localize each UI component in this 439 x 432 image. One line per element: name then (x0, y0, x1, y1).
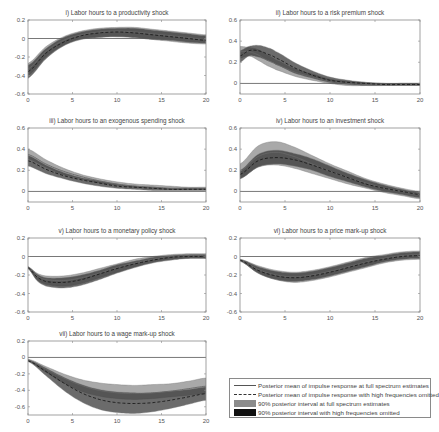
y-tick-label: 0.2 (17, 17, 26, 23)
x-tick-label: 5 (71, 315, 75, 321)
legend-item-omitted-mean: Posterior mean of impulse response with … (234, 390, 439, 399)
panel-v: v) Labor hours to a monetary policy shoc… (15, 227, 210, 321)
panel-title: vi) Labor hours to a price mark-up shock (274, 227, 388, 235)
plot-area (28, 149, 206, 191)
legend-label: Posterior mean of impulse response at fu… (258, 382, 429, 389)
y-tick-label: -0.6 (227, 309, 238, 315)
y-tick-label: 0 (22, 254, 26, 260)
x-tick-label: 20 (203, 97, 210, 103)
x-tick-label: 5 (71, 418, 75, 424)
y-tick-label: 0.2 (17, 235, 26, 241)
legend-item-omitted-interval: 90% posterior interval with high frequen… (234, 408, 400, 417)
legend: Posterior mean of impulse response at fu… (229, 378, 431, 418)
x-tick-label: 0 (238, 205, 242, 211)
x-tick-label: 5 (283, 97, 287, 103)
x-tick-label: 10 (327, 205, 334, 211)
x-tick-label: 5 (283, 205, 287, 211)
plot-area (28, 254, 206, 288)
dashed-line-icon (234, 391, 256, 398)
y-tick-label: 0.4 (229, 38, 238, 44)
black-fill-swatch-icon (234, 409, 256, 416)
x-tick-label: 15 (372, 97, 379, 103)
x-tick-label: 10 (114, 205, 121, 211)
y-tick-label: 0 (234, 80, 238, 86)
x-tick-label: 10 (114, 315, 121, 321)
y-tick-label: -0.4 (227, 291, 238, 297)
y-tick-label: 0.2 (17, 167, 26, 173)
x-tick-label: 0 (238, 97, 242, 103)
panel-iv: iv) Labor hours to an investment shock0.… (229, 117, 424, 211)
gray-fill-swatch-icon (234, 400, 256, 407)
legend-label: Posterior mean of impulse response with … (258, 391, 439, 398)
y-tick-label: -0.4 (15, 73, 26, 79)
x-tick-label: 15 (158, 205, 165, 211)
plot-area (28, 357, 206, 413)
interval-omitted-band (240, 150, 420, 198)
panel-title: i) Labor hours to a productivity shock (66, 9, 170, 17)
plot-area (240, 142, 420, 199)
x-tick-label: 15 (372, 315, 379, 321)
interval-omitted-band (28, 28, 206, 78)
x-tick-label: 0 (26, 97, 30, 103)
x-tick-label: 15 (372, 205, 379, 211)
panel-title: vii) Labor hours to a wage mark-up shock (59, 330, 175, 338)
x-tick-label: 5 (71, 97, 75, 103)
y-tick-label: -0.6 (15, 91, 26, 97)
y-tick-label: 0.2 (17, 338, 26, 344)
interval-omitted-band (28, 255, 206, 288)
y-tick-label: -0.2 (15, 371, 26, 377)
y-tick-label: 0.2 (229, 167, 238, 173)
y-tick-label: 0 (234, 254, 238, 260)
panel-title: iv) Labor hours to an investment shock (276, 117, 385, 125)
x-tick-label: 20 (417, 97, 424, 103)
x-tick-label: 20 (203, 315, 210, 321)
panel-vii: vii) Labor hours to a wage mark-up shock… (15, 330, 210, 424)
interval-omitted-band (28, 156, 206, 191)
x-tick-label: 5 (283, 315, 287, 321)
y-tick-label: 0 (22, 36, 26, 42)
y-tick-label: -0.2 (227, 272, 238, 278)
y-tick-label: 0.4 (229, 146, 238, 152)
x-tick-label: 20 (417, 205, 424, 211)
panel-ii: ii) Labor hours to a risk premium shock0… (229, 9, 424, 103)
panel-vi: vi) Labor hours to a price mark-up shock… (227, 227, 424, 321)
y-tick-label: 0 (234, 188, 238, 194)
x-tick-label: 10 (114, 97, 121, 103)
x-tick-label: 20 (203, 205, 210, 211)
x-tick-label: 0 (238, 315, 242, 321)
y-tick-label: 0.6 (229, 17, 238, 23)
y-tick-label: -0.6 (15, 309, 26, 315)
panel-iii: iii) Labor hours to an exogenous spendin… (17, 117, 210, 211)
y-tick-label: -0.2 (15, 272, 26, 278)
y-tick-label: 0 (22, 354, 26, 360)
y-tick-label: 0.6 (229, 125, 238, 131)
x-tick-label: 10 (327, 315, 334, 321)
legend-item-full-interval: 90% posterior interval at full spectrum … (234, 399, 390, 408)
legend-label: 90% posterior interval with high frequen… (258, 409, 400, 416)
x-tick-label: 0 (26, 418, 30, 424)
panel-title: v) Labor hours to a monetary policy shoc… (59, 227, 177, 235)
y-tick-label: -0.6 (15, 404, 26, 410)
y-tick-label: 0.4 (17, 146, 26, 152)
panel-i: i) Labor hours to a productivity shock0.… (15, 9, 210, 103)
y-tick-label: 0 (22, 188, 26, 194)
legend-item-full-mean: Posterior mean of impulse response at fu… (234, 381, 429, 390)
panel-title: ii) Labor hours to a risk premium shock (276, 9, 385, 17)
plot-area (240, 251, 420, 282)
y-tick-label: -0.2 (15, 54, 26, 60)
y-tick-label: 0.2 (229, 59, 238, 65)
plot-area (240, 45, 420, 85)
y-tick-label: -0.4 (15, 291, 26, 297)
panel-title: iii) Labor hours to an exogenous spendin… (49, 117, 185, 125)
x-tick-label: 15 (158, 97, 165, 103)
x-tick-label: 0 (26, 205, 30, 211)
y-tick-label: 0.2 (229, 235, 238, 241)
x-tick-label: 10 (114, 418, 121, 424)
x-tick-label: 15 (158, 315, 165, 321)
x-tick-label: 5 (71, 205, 75, 211)
x-tick-label: 20 (203, 418, 210, 424)
axes-box (28, 238, 206, 312)
plot-area (28, 27, 206, 78)
x-tick-label: 15 (158, 418, 165, 424)
